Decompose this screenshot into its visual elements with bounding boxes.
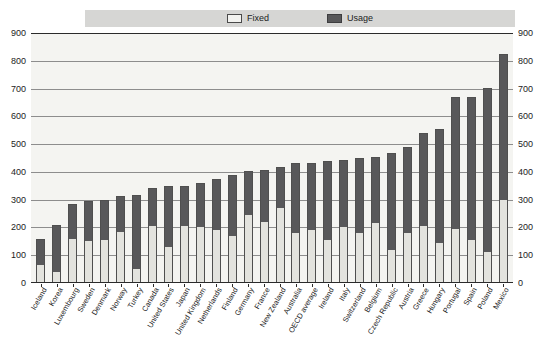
- stacked-bar[interactable]: [387, 153, 396, 283]
- stacked-bar[interactable]: [323, 161, 332, 283]
- bar-segment-usage: [37, 240, 44, 265]
- stacked-bar[interactable]: [196, 183, 205, 283]
- stacked-bar[interactable]: [100, 200, 109, 283]
- bar-segment-fixed: [340, 227, 347, 283]
- stacked-bar[interactable]: [228, 175, 237, 283]
- bar-segment-usage: [500, 55, 507, 199]
- y-axis-tick-label: 100: [518, 251, 544, 260]
- y-axis-tick-label: 0: [0, 279, 26, 288]
- x-axis-label-slot: Turkey: [129, 284, 145, 348]
- bar-segment-usage: [452, 98, 459, 229]
- bar-segment-usage: [261, 171, 268, 222]
- bar-slot: [192, 33, 208, 283]
- y-axis-tick-label: 700: [0, 85, 26, 94]
- bar-segment-fixed: [324, 240, 331, 283]
- stacked-bar[interactable]: [36, 239, 45, 283]
- stacked-bar[interactable]: [499, 54, 508, 283]
- x-axis-label-slot: Germany: [240, 284, 256, 348]
- stacked-bar[interactable]: [164, 186, 173, 283]
- bar-segment-fixed: [484, 252, 491, 283]
- bar-slot: [384, 33, 400, 283]
- legend-item-usage: Usage: [327, 14, 373, 23]
- stacked-bar[interactable]: [307, 163, 316, 283]
- bar-segment-fixed: [245, 215, 252, 283]
- x-axis-labels: IcelandKoreaLuxembourgSwedenDenmarkNorwa…: [31, 284, 513, 348]
- x-axis-label-slot: Iceland: [33, 284, 49, 348]
- x-axis-label: Ireland: [316, 286, 335, 310]
- x-axis-label-slot: New Zealand: [272, 284, 288, 348]
- bar-slot: [224, 33, 240, 283]
- stacked-bar[interactable]: [52, 225, 61, 283]
- stacked-bar[interactable]: [403, 147, 412, 283]
- y-axis-tick-label: 900: [518, 29, 544, 38]
- bar-slot: [463, 33, 479, 283]
- bar-slot: [479, 33, 495, 283]
- x-axis-label-slot: Sweden: [81, 284, 97, 348]
- x-axis-label: Mexico: [491, 286, 511, 311]
- y-axis-tick-label: 800: [0, 57, 26, 66]
- bar-segment-usage: [229, 176, 236, 236]
- stacked-bar[interactable]: [244, 171, 253, 283]
- x-axis-label-slot: Czech Republic: [384, 284, 400, 348]
- stacked-bar[interactable]: [339, 160, 348, 283]
- bar-slot: [272, 33, 288, 283]
- x-axis-label-slot: Ireland: [320, 284, 336, 348]
- stacked-bar[interactable]: [116, 196, 125, 283]
- y-axis-tick-label: 500: [0, 140, 26, 149]
- stacked-bar[interactable]: [260, 170, 269, 283]
- bar-segment-fixed: [133, 269, 140, 283]
- stacked-bar[interactable]: [276, 167, 285, 283]
- stacked-bar[interactable]: [68, 204, 77, 283]
- y-axis-tick-label: 300: [518, 196, 544, 205]
- stacked-bar[interactable]: [371, 157, 380, 283]
- stacked-bar[interactable]: [435, 129, 444, 283]
- stacked-bar[interactable]: [291, 163, 300, 283]
- stacked-bar[interactable]: [212, 179, 221, 283]
- y-axis-tick-label: 900: [0, 29, 26, 38]
- y-axis-tick-label: 700: [518, 85, 544, 94]
- x-axis-label-slot: Netherlands: [208, 284, 224, 348]
- stacked-bar[interactable]: [419, 133, 428, 283]
- bar-segment-fixed: [197, 227, 204, 283]
- stacked-bar-chart: Fixed Usage 9008007006005004003002001000…: [0, 0, 545, 348]
- bar-segment-fixed: [37, 265, 44, 283]
- bar-segment-usage: [149, 189, 156, 227]
- plot-area: [31, 33, 513, 283]
- y-axis-tick-label: 100: [0, 251, 26, 260]
- legend-label-usage: Usage: [347, 14, 373, 23]
- stacked-bar[interactable]: [148, 188, 157, 283]
- y-axis-tick-label: 500: [518, 140, 544, 149]
- y-axis-tick-label: 600: [0, 112, 26, 121]
- x-axis-label-slot: Spain: [463, 284, 479, 348]
- stacked-bar[interactable]: [132, 195, 141, 283]
- bar-slot: [431, 33, 447, 283]
- bar-segment-usage: [468, 98, 475, 240]
- stacked-bar[interactable]: [355, 158, 364, 283]
- x-axis-label-slot: Portugal: [447, 284, 463, 348]
- bar-segment-usage: [388, 154, 395, 250]
- bar-segment-usage: [484, 89, 491, 253]
- fixed-swatch-icon: [227, 14, 242, 23]
- stacked-bar[interactable]: [451, 97, 460, 283]
- bar-slot: [161, 33, 177, 283]
- bar-segment-usage: [165, 187, 172, 247]
- bar-segment-fixed: [420, 226, 427, 283]
- stacked-bar[interactable]: [84, 201, 93, 283]
- bar-segment-usage: [69, 205, 76, 238]
- bar-segment-fixed: [292, 233, 299, 283]
- bar-segment-usage: [117, 197, 124, 232]
- bar-segment-fixed: [372, 223, 379, 283]
- bar-segment-fixed: [181, 226, 188, 283]
- bar-slot: [256, 33, 272, 283]
- y-axis-tick-label: 400: [518, 168, 544, 177]
- bar-segment-usage: [245, 172, 252, 215]
- x-axis-label-slot: Switzerland: [352, 284, 368, 348]
- y-axis-tick-label: 300: [0, 196, 26, 205]
- stacked-bar[interactable]: [483, 88, 492, 283]
- bar-segment-fixed: [468, 240, 475, 283]
- stacked-bar[interactable]: [467, 97, 476, 283]
- x-axis-label-slot: Greece: [416, 284, 432, 348]
- bar-segment-fixed: [356, 233, 363, 283]
- stacked-bar[interactable]: [180, 186, 189, 283]
- bar-slot: [129, 33, 145, 283]
